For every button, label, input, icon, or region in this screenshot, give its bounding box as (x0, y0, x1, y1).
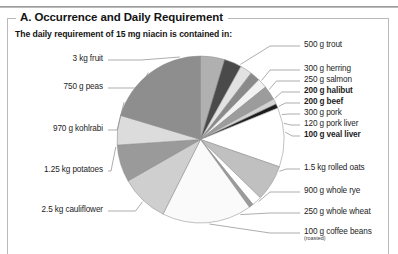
leader-line (262, 70, 300, 81)
callout-label-peas: 750 g peas (63, 83, 103, 92)
callout-label-text: 250 g whole wheat (304, 207, 371, 216)
callout-label-text: 250 g salmon (304, 75, 352, 84)
callout-label-halibut: 200 g halibut (304, 87, 353, 96)
callout-label-text: 300 g pork (304, 108, 342, 117)
callout-label-trout: 500 g trout (304, 41, 342, 50)
leader-line (275, 92, 300, 98)
leader-line (285, 132, 300, 136)
callout-label-text: 3 kg fruit (73, 54, 103, 63)
leader-line (269, 81, 300, 90)
callout-label-beef: 200 g beef (304, 98, 343, 107)
leader-line (108, 57, 180, 60)
callout-label-text: 750 g peas (63, 82, 103, 91)
callout-label-pork: 300 g pork (304, 109, 342, 118)
callout-label-text: 500 g trout (304, 40, 342, 49)
callout-label-text: 1.25 kg potatoes (44, 165, 103, 174)
callout-label-veal-liver: 100 g veal liver (304, 131, 361, 140)
callout-label-text: 200 g beef (304, 97, 343, 106)
callout-label-herring: 300 g herring (304, 65, 351, 74)
leader-line (240, 213, 300, 215)
leader-line (209, 224, 300, 233)
callout-label-text: 100 g veal liver (304, 130, 361, 139)
callout-label-salmon: 250 g salmon (304, 76, 352, 85)
callout-label-text: 2.5 kg cauliflower (42, 205, 103, 214)
leader-line (108, 147, 116, 171)
leader-line (284, 123, 300, 125)
leader-line (279, 103, 300, 106)
callout-label-text: 200 g halibut (304, 86, 353, 95)
callout-label-pork-liver: 120 g pork liver (304, 120, 358, 129)
callout-label-rolled-oats: 1.5 kg rolled oats (304, 164, 365, 173)
leader-line (279, 169, 300, 171)
leader-line (259, 192, 301, 202)
callout-label-coffee-beans: 100 g coffee beans(roasted) (304, 228, 372, 241)
callout-label-cauliflower: 2.5 kg cauliflower (42, 206, 103, 215)
callout-label-whole-wheat: 250 g whole wheat (304, 208, 371, 217)
callout-label-kohlrabi: 970 g kohlrabi (53, 125, 103, 134)
leader-line (108, 202, 143, 211)
callout-label-subtext: (roasted) (304, 236, 372, 242)
leader-line (240, 46, 300, 64)
callout-label-text: 900 g whole rye (304, 186, 360, 195)
leader-line (282, 114, 300, 115)
pie-slices (117, 56, 284, 223)
callout-label-text: 300 g herring (304, 64, 351, 73)
callout-label-text: 970 g kohlrabi (53, 124, 103, 133)
callout-label-fruit: 3 kg fruit (73, 55, 103, 64)
callout-label-potatoes: 1.25 kg potatoes (44, 166, 103, 175)
callout-label-whole-rye: 900 g whole rye (304, 187, 360, 196)
callout-label-text: 120 g pork liver (304, 119, 358, 128)
callout-label-text: 1.5 kg rolled oats (304, 163, 365, 172)
